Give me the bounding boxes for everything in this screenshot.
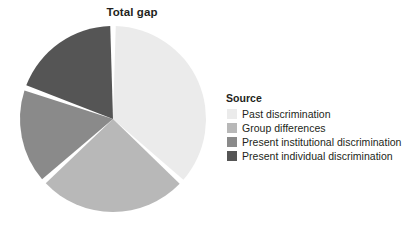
legend-swatch-icon: [227, 151, 237, 161]
pie-svg: [0, 0, 230, 229]
pie-plot-area: [0, 0, 230, 229]
legend-swatch-icon: [227, 137, 237, 147]
legend-item-label: Present institutional discrimination: [242, 136, 401, 148]
legend: Source Past discrimination Group differe…: [226, 92, 415, 163]
legend-item-present-institutional-discrimination[interactable]: Present institutional discrimination: [226, 135, 415, 149]
legend-swatch-icon: [227, 123, 237, 133]
pie-slice-group: [20, 26, 206, 212]
legend-item-group-differences[interactable]: Group differences: [226, 121, 415, 135]
legend-item-label: Group differences: [242, 122, 326, 134]
legend-item-present-individual-discrimination[interactable]: Present individual discrimination: [226, 149, 415, 163]
legend-item-label: Past discrimination: [242, 108, 331, 120]
legend-title: Source: [226, 92, 415, 104]
pie-chart-figure: Total gap Source Past discrimination Gro…: [0, 0, 415, 229]
legend-item-label: Present individual discrimination: [242, 150, 393, 162]
legend-item-past-discrimination[interactable]: Past discrimination: [226, 107, 415, 121]
legend-swatch-icon: [227, 109, 237, 119]
